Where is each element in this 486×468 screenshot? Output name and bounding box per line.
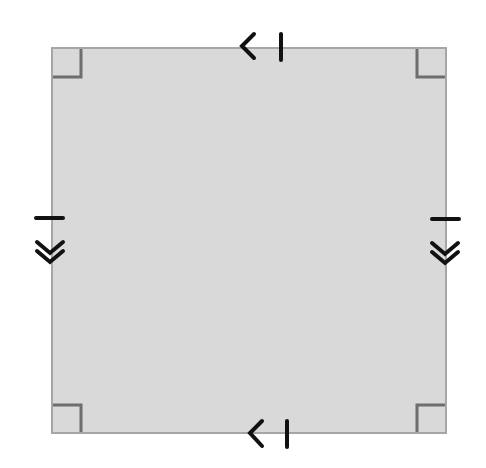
square — [52, 48, 446, 433]
diagram-canvas — [0, 0, 486, 468]
